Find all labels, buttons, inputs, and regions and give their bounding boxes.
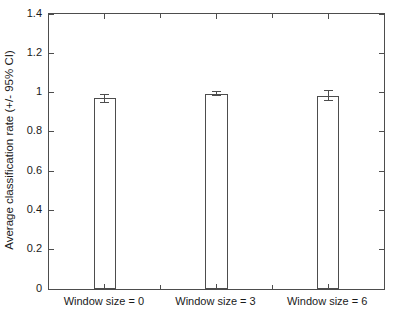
y-tick-label: 0 — [8, 283, 42, 294]
y-tick-label: 0.8 — [8, 125, 42, 136]
x-tick-top — [328, 14, 329, 19]
error-cap-2-0 — [324, 90, 333, 91]
y-tick-left — [49, 210, 54, 211]
x-tick-top — [104, 14, 105, 19]
x-minor-tick-top — [160, 14, 161, 18]
x-minor-tick-bottom — [160, 285, 161, 289]
bar-1 — [205, 94, 227, 289]
x-minor-tick-top — [272, 14, 273, 18]
bar-2 — [317, 96, 339, 289]
y-tick-label: 1 — [8, 86, 42, 97]
y-tick-label: 0.4 — [8, 204, 42, 215]
figure: Average classification rate (+/- 95% CI)… — [0, 0, 396, 316]
y-tick-label: 0.2 — [8, 243, 42, 254]
y-tick-right — [379, 92, 384, 93]
plot-area — [48, 13, 385, 290]
y-tick-right — [379, 289, 384, 290]
y-axis-label: Average classification rate (+/- 95% CI) — [3, 50, 15, 250]
y-tick-left — [49, 14, 54, 15]
error-cap-2-1 — [324, 100, 333, 101]
error-bar-2 — [328, 91, 329, 101]
x-tick-bottom — [328, 284, 329, 289]
y-tick-left — [49, 131, 54, 132]
y-tick-right — [379, 53, 384, 54]
y-tick-right — [379, 210, 384, 211]
x-tick-top — [216, 14, 217, 19]
y-tick-left — [49, 53, 54, 54]
y-tick-left — [49, 289, 54, 290]
y-tick-label: 1.2 — [8, 47, 42, 58]
error-cap-1-0 — [212, 91, 221, 92]
bar-0 — [94, 98, 116, 289]
y-tick-right — [379, 249, 384, 250]
error-cap-1-1 — [212, 95, 221, 96]
error-cap-0-0 — [100, 94, 109, 95]
y-tick-left — [49, 92, 54, 93]
x-tick-label: Window size = 0 — [49, 295, 159, 308]
y-tick-right — [379, 131, 384, 132]
x-tick-label: Window size = 6 — [272, 295, 382, 308]
x-tick-label: Window size = 3 — [161, 295, 271, 308]
y-tick-left — [49, 249, 54, 250]
y-tick-label: 0.6 — [8, 165, 42, 176]
y-tick-right — [379, 171, 384, 172]
y-tick-left — [49, 171, 54, 172]
x-minor-tick-bottom — [272, 285, 273, 289]
x-tick-bottom — [216, 284, 217, 289]
x-tick-bottom — [104, 284, 105, 289]
error-cap-0-1 — [100, 102, 109, 103]
y-tick-label: 1.4 — [8, 8, 42, 19]
y-tick-right — [379, 14, 384, 15]
